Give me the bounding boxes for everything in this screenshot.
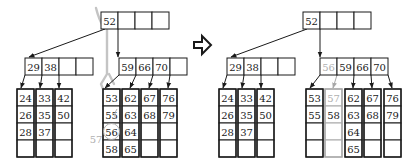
key-label: 67	[143, 93, 156, 104]
hollow-right-arrow-icon	[194, 36, 211, 54]
root-to-left-child-arrow	[29, 29, 105, 57]
key-label: 26	[19, 110, 32, 121]
key-label: 57	[327, 93, 340, 104]
key-label: 70	[373, 62, 386, 73]
after-leaf-right-4: 7679	[384, 89, 401, 157]
before-leaf-left-2: 4250	[55, 89, 72, 157]
key-label: 24	[19, 93, 32, 104]
after-leaf-right-3: 6768	[364, 89, 381, 157]
key-cell	[118, 12, 135, 29]
internal-to-leaf-arrow	[242, 75, 244, 88]
internal-to-leaf-arrow	[168, 75, 170, 88]
key-label: 35	[38, 110, 51, 121]
after-leaf-right-2: 62636465	[345, 89, 362, 157]
internal-to-leaf-arrow	[353, 75, 354, 88]
key-label: 63	[124, 110, 137, 121]
key-label: 79	[386, 110, 399, 121]
key-cell	[306, 140, 323, 157]
key-label: 65	[124, 144, 137, 155]
before-leaf-right-1: 62636465	[122, 89, 139, 157]
internal-to-leaf-arrow	[388, 75, 392, 88]
before-root-node: 52	[101, 12, 169, 29]
after-leaf-right-0: 5355	[306, 89, 323, 157]
key-label: 50	[57, 110, 70, 121]
internal-to-leaf-arrow	[105, 75, 119, 88]
key-label: 50	[259, 110, 272, 121]
key-label: 76	[386, 93, 399, 104]
key-label: 42	[259, 93, 272, 104]
key-label: 28	[221, 127, 234, 138]
key-label: 64	[347, 127, 360, 138]
key-label: 33	[240, 93, 253, 104]
key-label: 63	[347, 110, 360, 121]
key-label: 33	[38, 93, 51, 104]
before-internal-node-left: 2938	[25, 58, 93, 75]
before-leaf-left-0: 242628	[17, 89, 34, 157]
key-cell	[354, 12, 371, 29]
key-cell	[141, 123, 158, 140]
new-leaf-pointer-arrow	[333, 75, 337, 88]
tree-nodes: 5229385966702426283335374250535556586263…	[17, 12, 401, 157]
before-leaf-right-2: 6768	[141, 89, 158, 157]
internal-to-leaf-arrow	[21, 75, 25, 88]
after-leaf-left-2: 4250	[257, 89, 274, 157]
key-label: 65	[347, 144, 360, 155]
internal-to-leaf-arrow	[223, 75, 227, 88]
key-cell	[76, 58, 93, 75]
key-cell	[337, 12, 354, 29]
key-cell	[55, 123, 72, 140]
after-leaf-right-1: 5758	[325, 89, 342, 157]
key-label: 67	[366, 93, 379, 104]
key-label: 53	[105, 93, 118, 104]
key-cell	[238, 140, 255, 157]
key-label: 68	[143, 110, 156, 121]
key-label: 58	[327, 110, 340, 121]
root-to-left-child-arrow	[231, 29, 307, 57]
key-label: 26	[221, 110, 234, 121]
key-label: 28	[19, 127, 32, 138]
key-cell	[278, 58, 295, 75]
inserted-key-label: 57	[90, 134, 103, 145]
key-cell	[306, 123, 323, 140]
key-cell	[135, 12, 152, 29]
after-root-node: 52	[303, 12, 371, 29]
key-label: 35	[240, 110, 253, 121]
key-cell	[152, 12, 169, 29]
key-label: 64	[124, 127, 137, 138]
before-leaf-left-1: 333537	[36, 89, 53, 157]
key-label: 29	[27, 62, 40, 73]
key-cell	[261, 58, 278, 75]
key-label: 56	[105, 127, 118, 138]
key-label: 66	[138, 62, 151, 73]
key-cell	[141, 140, 158, 157]
key-label: 29	[229, 62, 242, 73]
key-label: 59	[121, 62, 134, 73]
key-cell	[160, 123, 177, 140]
key-label: 37	[38, 127, 51, 138]
key-label: 52	[305, 16, 318, 27]
key-cell	[384, 123, 401, 140]
key-cell	[219, 140, 236, 157]
internal-to-leaf-arrow	[130, 75, 136, 88]
key-cell	[160, 140, 177, 157]
key-cell	[364, 140, 381, 157]
internal-to-leaf-arrow	[40, 75, 42, 88]
key-label: 52	[103, 16, 116, 27]
key-cell	[384, 140, 401, 157]
key-cell	[55, 140, 72, 157]
key-label: 70	[155, 62, 168, 73]
key-label: 58	[105, 144, 118, 155]
key-cell	[364, 123, 381, 140]
key-label: 55	[308, 110, 321, 121]
key-label: 38	[44, 62, 57, 73]
key-label: 79	[162, 110, 175, 121]
b-tree-diagram: 5229385966702426283335374250535556586263…	[0, 0, 419, 166]
key-label: 59	[339, 62, 352, 73]
after-leaf-left-1: 333537	[238, 89, 255, 157]
key-label: 24	[221, 93, 234, 104]
internal-to-leaf-arrow	[149, 75, 153, 88]
after-leaf-left-0: 242628	[219, 89, 236, 157]
key-label: 76	[162, 93, 175, 104]
key-cell	[59, 58, 76, 75]
key-label: 56	[322, 62, 335, 73]
